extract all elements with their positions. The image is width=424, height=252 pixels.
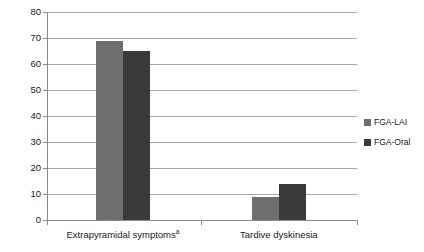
bar xyxy=(252,197,279,220)
gridline xyxy=(47,64,357,65)
y-tick-label: 30 xyxy=(15,137,41,147)
y-tick-label: 50 xyxy=(15,85,41,95)
x-axis-line xyxy=(47,220,358,221)
y-tick-label: 70 xyxy=(15,33,41,43)
bar-chart: Prevalence (%) 01020304050607080 Extrapy… xyxy=(0,0,424,252)
gridline xyxy=(47,116,357,117)
x-tick-mark xyxy=(201,221,202,225)
x-tick-mark xyxy=(47,221,48,225)
x-tick-mark xyxy=(357,221,358,225)
legend-item: FGA-Oral xyxy=(364,132,424,152)
y-tick-label: 80 xyxy=(15,7,41,17)
legend: FGA-LAIFGA-Oral xyxy=(364,112,424,152)
plot-area xyxy=(47,12,357,220)
bar xyxy=(96,41,123,220)
legend-label: FGA-Oral xyxy=(374,137,410,147)
y-tick-label: 0 xyxy=(15,215,41,225)
gridline xyxy=(47,90,357,91)
legend-item: FGA-LAI xyxy=(364,112,424,132)
gridline xyxy=(47,142,357,143)
gridline xyxy=(47,168,357,169)
x-axis-category-label: Tardive dyskinesia xyxy=(240,229,318,241)
y-tick-label: 10 xyxy=(15,189,41,199)
y-tick-label: 20 xyxy=(15,163,41,173)
gridline xyxy=(47,38,357,39)
bar xyxy=(279,184,306,220)
y-axis-line xyxy=(47,12,48,221)
legend-swatch-icon xyxy=(364,139,371,146)
legend-swatch-icon xyxy=(364,119,371,126)
legend-label: FGA-LAI xyxy=(374,117,407,127)
gridline xyxy=(47,12,357,13)
x-axis-category-label: Extrapyramidal symptomsa xyxy=(67,229,180,241)
y-tick-label: 40 xyxy=(15,111,41,121)
footnote-marker: a xyxy=(176,228,180,235)
bar xyxy=(123,51,150,220)
gridline xyxy=(47,194,357,195)
y-tick-label: 60 xyxy=(15,59,41,69)
